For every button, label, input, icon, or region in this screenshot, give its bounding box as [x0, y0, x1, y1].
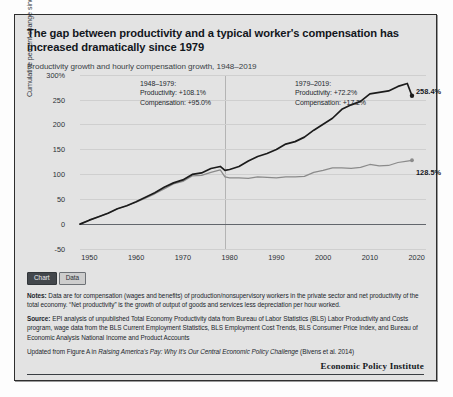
annotation-1-heading: 1948–1979: [140, 79, 211, 89]
epi-brand: Economic Policy Institute [27, 361, 424, 371]
y-axis-ticks: 300%250200150100500-50 [27, 75, 65, 271]
x-tick-label: 1980 [221, 253, 237, 262]
tab-data[interactable]: Data [59, 272, 87, 285]
annotation-1-compensation: Compensation: +95.0% [140, 98, 211, 108]
endpoint-productivity [410, 93, 414, 97]
source-text: EPI analysis of unpublished Total Econom… [27, 315, 418, 341]
chart-subtitle: Productivity growth and hourly compensat… [27, 62, 424, 71]
annotation-1-productivity: Productivity: +108.1% [140, 88, 211, 98]
y-tick-label: -50 [29, 244, 65, 253]
y-tick-label: 0 [29, 219, 65, 228]
source-label: Source: [27, 315, 50, 322]
x-tick-label: 1970 [175, 253, 191, 262]
updated-post: (Bivens et al. 2014) [298, 348, 354, 355]
annotation-2-compensation: Compensation: +17.2% [295, 98, 366, 108]
y-tick-label: 300% [29, 70, 65, 79]
notes-paragraph: Notes: Data are for compensation (wages … [27, 291, 424, 310]
gridline [80, 249, 426, 250]
annotation-2-productivity: Productivity: +72.2% [295, 88, 366, 98]
updated-paragraph: Updated from Figure A in Raising America… [27, 347, 424, 356]
line-compensation [80, 160, 412, 224]
chart-area: Cumulative percent change since 1948 300… [27, 75, 426, 271]
updated-italic-title: Raising America's Pay: Why It's Our Cent… [98, 348, 298, 355]
tab-chart[interactable]: Chart [27, 272, 57, 285]
y-tick-label: 200 [29, 120, 65, 129]
page-title: The gap between productivity and a typic… [27, 26, 424, 55]
annotation-1979-2019: 1979–2019: Productivity: +72.2% Compensa… [295, 79, 366, 108]
x-tick-label: 2000 [315, 253, 331, 262]
annotation-1948-1979: 1948–1979: Productivity: +108.1% Compens… [140, 79, 211, 108]
bottom-rule [27, 374, 424, 375]
y-tick-label: 100 [29, 170, 65, 179]
y-tick-label: 150 [29, 145, 65, 154]
x-tick-label: 2020 [409, 253, 425, 262]
notes-text: Data are for compensation (wages and ben… [27, 292, 419, 308]
footnotes: Notes: Data are for compensation (wages … [27, 291, 424, 357]
updated-pre: Updated from Figure A in [27, 348, 98, 355]
view-toggle[interactable]: Chart Data [27, 272, 424, 285]
plot-region: 1948–1979: Productivity: +108.1% Compens… [80, 75, 426, 249]
x-tick-label: 1950 [81, 253, 97, 262]
series-lines [80, 75, 426, 249]
x-tick-label: 1960 [128, 253, 144, 262]
annotation-2-heading: 1979–2019: [295, 79, 366, 89]
chart-card: The gap between productivity and a typic… [14, 14, 437, 381]
data-label-compensation: 128.5% [416, 168, 441, 177]
x-axis-ticks: 19501960197019801990200020102020 [80, 253, 426, 267]
y-tick-label: 50 [29, 194, 65, 203]
source-paragraph: Source: EPI analysis of unpublished Tota… [27, 314, 424, 342]
notes-label: Notes: [27, 292, 47, 299]
data-label-productivity: 258.4% [416, 87, 441, 96]
endpoint-compensation [410, 158, 414, 162]
y-tick-label: 250 [29, 95, 65, 104]
x-tick-label: 1990 [268, 253, 284, 262]
x-tick-label: 2010 [362, 253, 378, 262]
